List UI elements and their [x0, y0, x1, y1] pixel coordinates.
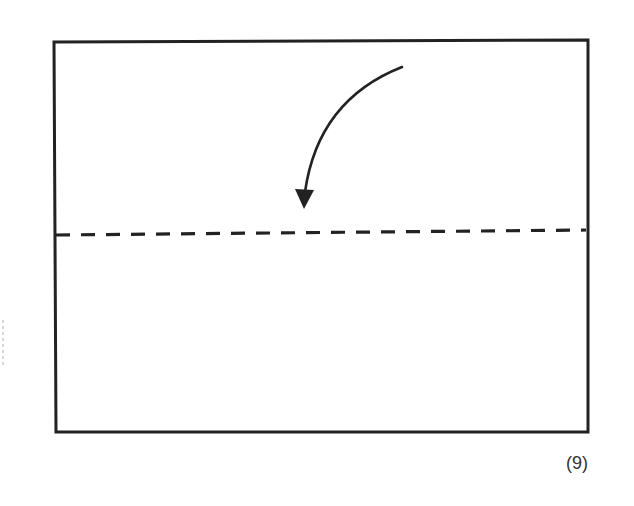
origami-fold-diagram: [0, 0, 634, 506]
arrowhead-icon: [295, 189, 314, 209]
paper-sheet-outline: [54, 40, 588, 432]
valley-fold-line: [56, 230, 586, 235]
fold-direction-arrow-icon: [305, 67, 402, 192]
step-number-label: (9): [566, 453, 588, 474]
